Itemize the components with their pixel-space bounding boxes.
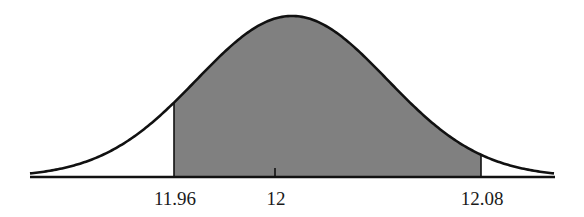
tick-label-right: 12.08 bbox=[461, 188, 504, 209]
shaded-area bbox=[174, 16, 481, 177]
tick-label-center: 12 bbox=[267, 188, 286, 209]
normal-distribution-chart: 11.96 12 12.08 bbox=[0, 0, 584, 217]
tick-label-left: 11.96 bbox=[154, 188, 196, 209]
